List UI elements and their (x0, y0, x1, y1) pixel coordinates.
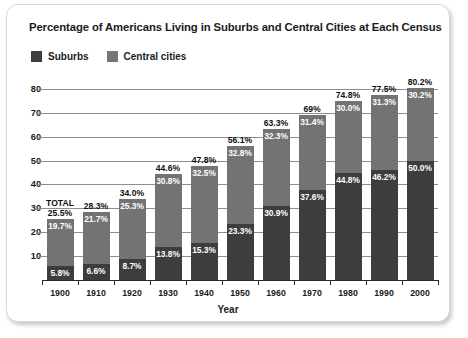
bar-column[interactable]: 25.5%TOTAL19.7%5.8% (47, 219, 74, 280)
x-axis-tick-label: 1920 (116, 288, 149, 298)
bar-value-label-central-cities: 21.7% (83, 214, 110, 224)
bar-column[interactable]: 69%31.4%37.6% (299, 115, 326, 280)
bar-total-label: 74.8% (329, 90, 368, 100)
bar-segment-central-cities[interactable]: 25.3% (119, 199, 146, 259)
bar-value-label-central-cities: 19.7% (47, 221, 74, 231)
x-axis-tick-label: 1960 (260, 288, 293, 298)
bar-total-label: 56.1% (221, 135, 260, 145)
x-axis-tick (150, 280, 151, 285)
bar-segment-suburbs[interactable]: 37.6% (299, 190, 326, 280)
bar-segment-suburbs[interactable]: 30.9% (263, 206, 290, 280)
bar-value-label-suburbs: 50.0% (407, 163, 434, 173)
x-axis-tick (402, 280, 403, 285)
bar-total-label: 69% (293, 104, 332, 114)
x-axis-tick-label: 1990 (368, 288, 401, 298)
bar-value-label-central-cities: 32.5% (191, 168, 218, 178)
bar-segment-suburbs[interactable]: 50.0% (407, 161, 434, 280)
bar-column[interactable]: 74.8%30.0%44.8% (335, 101, 362, 280)
bar-column[interactable]: 77.5%31.3%46.2% (371, 95, 398, 280)
bar-value-label-central-cities: 30.2% (407, 90, 434, 100)
bar-value-label-suburbs: 15.3% (191, 245, 218, 255)
x-axis-tick (186, 280, 187, 285)
bar-segment-suburbs[interactable]: 8.7% (119, 259, 146, 280)
bar-value-label-central-cities: 32.8% (227, 148, 254, 158)
x-axis-tick (258, 280, 259, 285)
legend-label-suburbs: Suburbs (48, 51, 89, 62)
bar-value-label-central-cities: 31.3% (371, 97, 398, 107)
bar-segment-central-cities[interactable]: 31.4% (299, 115, 326, 190)
bar-segment-central-cities[interactable]: 30.2% (407, 88, 434, 160)
bar-group: 25.5%TOTAL19.7%5.8%28.3%21.7%6.6%34.0%25… (42, 77, 438, 280)
x-axis-tick-label: 1930 (152, 288, 185, 298)
bar-total-label: 28.3% (77, 201, 116, 211)
legend-item-central-cities: Central cities (107, 51, 187, 62)
x-axis-tick (294, 280, 295, 285)
bar-column[interactable]: 56.1%32.8%23.3% (227, 146, 254, 280)
bar-value-label-central-cities: 30.0% (335, 103, 362, 113)
bar-total-label: 47.8% (185, 155, 224, 165)
bar-value-label-suburbs: 5.8% (47, 268, 74, 278)
bar-value-label-suburbs: 13.8% (155, 249, 182, 259)
chart-card: Percentage of Americans Living in Suburb… (6, 4, 450, 322)
bar-segment-central-cities[interactable]: 31.3% (371, 95, 398, 170)
x-axis-labels: 1900191019201930194019501960197019801990… (42, 288, 438, 302)
bar-column[interactable]: 47.8%32.5%15.3% (191, 166, 218, 280)
bar-segment-central-cities[interactable]: 21.7% (83, 212, 110, 264)
plot-area: 25.5%TOTAL19.7%5.8%28.3%21.7%6.6%34.0%25… (42, 77, 438, 280)
bar-value-label-suburbs: 37.6% (299, 192, 326, 202)
total-annotation-label: TOTAL (41, 198, 80, 208)
bar-segment-suburbs[interactable]: 5.8% (47, 266, 74, 280)
bar-column[interactable]: 34.0%25.3%8.7% (119, 199, 146, 280)
bar-value-label-suburbs: 8.7% (119, 261, 146, 271)
x-axis-tick-label: 1940 (188, 288, 221, 298)
x-axis-tick-label: 1910 (80, 288, 113, 298)
x-axis-tick-label: 2000 (404, 288, 437, 298)
bar-segment-suburbs[interactable]: 6.6% (83, 264, 110, 280)
bar-total-label: 77.5% (365, 84, 404, 94)
bar-segment-central-cities[interactable]: 32.5% (191, 166, 218, 244)
bar-value-label-central-cities: 32.3% (263, 131, 290, 141)
bar-value-label-central-cities: 25.3% (119, 201, 146, 211)
legend-item-suburbs: Suburbs (31, 51, 89, 62)
x-axis-title: Year (7, 304, 449, 315)
x-axis-tick (366, 280, 367, 285)
bar-segment-central-cities[interactable]: 30.0% (335, 101, 362, 173)
x-axis-tick-label: 1950 (224, 288, 257, 298)
bar-total-label: 63.3% (257, 118, 296, 128)
legend-swatch-suburbs-icon (31, 51, 42, 62)
bar-total-label: 44.6% (149, 163, 188, 173)
bar-total-label: 25.5% (41, 208, 80, 218)
bar-segment-suburbs[interactable]: 44.8% (335, 173, 362, 280)
x-axis-tick (78, 280, 79, 285)
bar-column[interactable]: 63.3%32.3%30.9% (263, 129, 290, 280)
bar-column[interactable]: 80.2%30.2%50.0% (407, 88, 434, 280)
x-axis-tick (438, 280, 439, 285)
bar-value-label-suburbs: 46.2% (371, 172, 398, 182)
bar-value-label-suburbs: 6.6% (83, 266, 110, 276)
x-axis-tick (114, 280, 115, 285)
x-axis-line (42, 280, 438, 281)
legend-label-central-cities: Central cities (124, 51, 187, 62)
bar-column[interactable]: 44.6%30.8%13.8% (155, 174, 182, 281)
bar-segment-suburbs[interactable]: 23.3% (227, 224, 254, 280)
bar-total-label: 34.0% (113, 188, 152, 198)
bar-segment-central-cities[interactable]: 32.8% (227, 146, 254, 224)
bar-total-label: 80.2% (401, 77, 440, 87)
bar-segment-suburbs[interactable]: 13.8% (155, 247, 182, 280)
x-axis-tick-label: 1900 (44, 288, 77, 298)
x-axis-tick (42, 280, 43, 285)
x-axis-tick (222, 280, 223, 285)
bar-value-label-central-cities: 30.8% (155, 176, 182, 186)
legend-swatch-central-cities-icon (107, 51, 118, 62)
bar-value-label-central-cities: 31.4% (299, 117, 326, 127)
bar-segment-central-cities[interactable]: 19.7% (47, 219, 74, 266)
chart-title: Percentage of Americans Living in Suburb… (29, 21, 442, 33)
chart-legend: Suburbs Central cities (31, 51, 186, 62)
x-axis-tick-label: 1970 (296, 288, 329, 298)
bar-segment-suburbs[interactable]: 46.2% (371, 170, 398, 280)
bar-segment-suburbs[interactable]: 15.3% (191, 243, 218, 280)
bar-column[interactable]: 28.3%21.7%6.6% (83, 212, 110, 280)
bar-segment-central-cities[interactable]: 30.8% (155, 174, 182, 248)
bar-segment-central-cities[interactable]: 32.3% (263, 129, 290, 206)
bar-value-label-suburbs: 30.9% (263, 208, 290, 218)
